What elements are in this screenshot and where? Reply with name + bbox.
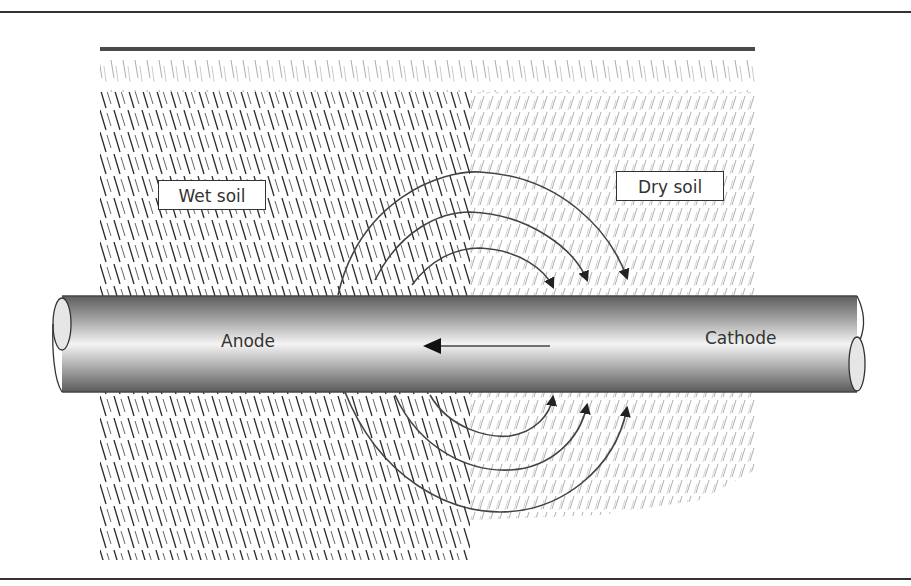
pipe-left-end (53, 298, 71, 350)
soil-pipe-diagram (0, 0, 911, 586)
dry-soil-label: Dry soil (616, 171, 724, 201)
pipe-right-end (849, 337, 865, 391)
wet-soil-label: Wet soil (158, 180, 266, 210)
anode-label: Anode (221, 331, 275, 351)
cathode-label: Cathode (705, 328, 776, 348)
ground-surface (100, 47, 755, 92)
